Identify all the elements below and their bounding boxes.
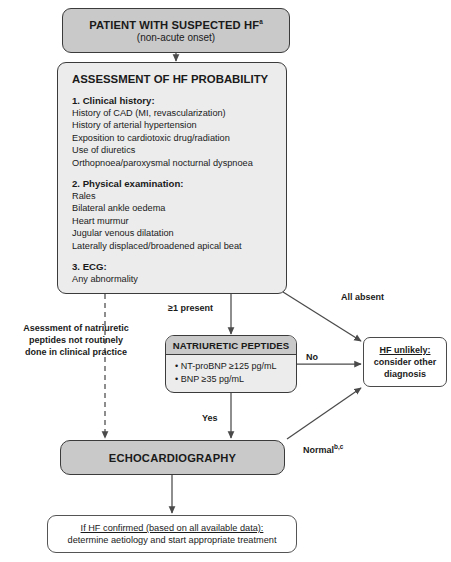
hf-unlikely-line1: HF unlikely: [379, 344, 430, 356]
annotation-dashed-note: Asessment of natriuretic peptides not ro… [18, 322, 134, 359]
assessment-item: Bilateral ankle oedema [72, 202, 286, 214]
natriuretic-header: NATRIURETIC PEPTIDES [166, 336, 296, 355]
natriuretic-item: • NT-proBNP ≥125 pg/mL [175, 360, 296, 373]
hf-unlikely-line3: diagnosis [384, 368, 426, 380]
natriuretic-body: • NT-proBNP ≥125 pg/mL • BNP ≥35 pg/mL [166, 355, 296, 385]
assessment-item: History of arterial hypertension [72, 119, 286, 131]
edge-label-at-least-one-present: ≥1 present [168, 303, 213, 313]
assessment-section-heading-clinical-history: 1. Clinical history: [72, 95, 286, 106]
edge-label-yes: Yes [202, 413, 218, 423]
node-patient-suspected-hf: PATIENT WITH SUSPECTED HFa (non-acute on… [62, 8, 290, 53]
hf-unlikely-line2: consider other [374, 356, 437, 368]
final-line2: determine aetiology and start appropriat… [68, 535, 277, 545]
node-final-if-hf-confirmed: If HF confirmed (based on all available … [47, 515, 297, 553]
assessment-item: Exposition to cardiotoxic drug/radiation [72, 132, 286, 144]
assessment-section-heading-physical-examination: 2. Physical examination: [72, 178, 286, 189]
node-natriuretic-peptides: NATRIURETIC PEPTIDES • NT-proBNP ≥125 pg… [165, 335, 297, 393]
assessment-item: Any abnormality [72, 273, 286, 285]
patient-title-superscript: a [259, 18, 263, 25]
node-hf-unlikely: HF unlikely: consider other diagnosis [363, 337, 447, 387]
edge-echocardiography-to-hf-unlikely [287, 388, 361, 439]
final-line1: If HF confirmed (based on all available … [81, 523, 264, 533]
node-assessment-of-hf-probability: ASSESSMENT OF HF PROBABILITY 1. Clinical… [57, 62, 287, 294]
edge-label-normal: Normalb,c [303, 443, 343, 455]
assessment-item: Jugular venous dilatation [72, 227, 286, 239]
edge-label-no: No [306, 352, 318, 362]
natriuretic-item: • BNP ≥35 pg/mL [175, 373, 296, 386]
patient-title: PATIENT WITH SUSPECTED HFa [89, 18, 263, 31]
assessment-section-heading-ecg: 3. ECG: [72, 261, 286, 272]
flowchart-canvas: PATIENT WITH SUSPECTED HFa (non-acute on… [0, 0, 451, 562]
assessment-item: Rales [72, 190, 286, 202]
assessment-item: Laterally displaced/broadened apical bea… [72, 240, 286, 252]
node-echocardiography: ECHOCARDIOGRAPHY [60, 440, 285, 475]
patient-subtitle: (non-acute onset) [137, 32, 215, 43]
edge-label-normal-superscript: b,c [334, 443, 343, 450]
assessment-item: Heart murmur [72, 215, 286, 227]
assessment-item: History of CAD (MI, revascularization) [72, 107, 286, 119]
edge-label-all-absent: All absent [341, 292, 384, 302]
assessment-header: ASSESSMENT OF HF PROBABILITY [72, 73, 286, 85]
assessment-item: Use of diuretics [72, 144, 286, 156]
assessment-item: Orthopnoea/paroxysmal nocturnal dyspnoea [72, 157, 286, 169]
